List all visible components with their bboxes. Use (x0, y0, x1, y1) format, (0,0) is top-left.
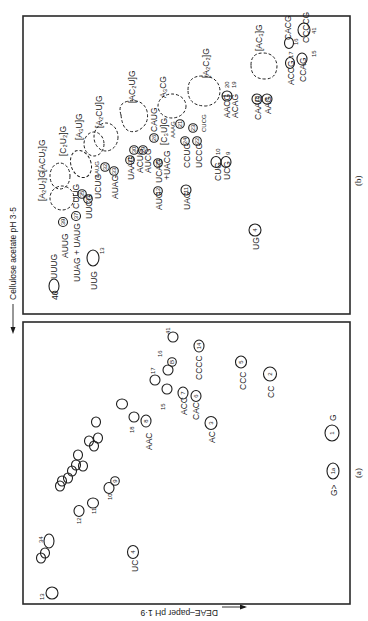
spot-number: 15 (311, 50, 317, 57)
spot-label: UUAG + UAUG (72, 223, 82, 282)
spot-label: AUUG (60, 233, 70, 258)
spot-number: 41 (311, 27, 317, 34)
spot-label: [ACU₂]G (37, 139, 47, 172)
panel-a-spots: 13 34 UC 4 12 11 10 9 18 (37, 327, 340, 600)
spot-label: UUUG (49, 254, 59, 279)
spot-label: ACC (179, 397, 189, 415)
spot-number: 37 (73, 212, 79, 219)
dashed-spot (188, 76, 220, 106)
spot-number: 17 (150, 367, 156, 374)
spot-number: 12 (155, 187, 161, 194)
spot-label: AAAG (170, 121, 176, 138)
spot-number: 4 (130, 550, 136, 554)
dashed-spot (50, 163, 70, 189)
spot-number: 11 (183, 186, 189, 193)
spot-label: [A₂C₂]G (201, 48, 211, 78)
spot-number: 39 (60, 218, 66, 225)
spot-label: [C₂U₂]G (58, 126, 68, 156)
axis-label-vertical: DEAE–paper pH 1·9 (140, 608, 218, 618)
spot-label: [A₂CU]G (94, 95, 104, 128)
spot-number: 18 (129, 426, 135, 433)
spot-label: AUAG (110, 175, 120, 199)
panel-b-label: (b) (353, 176, 363, 187)
spot-number: 12 (76, 517, 82, 524)
spot-number: 26 (151, 134, 157, 141)
spot-label: AAUG (94, 161, 100, 178)
spot-number: B (169, 360, 175, 364)
spot-number: 32 (102, 163, 108, 170)
spot-number: 30 (131, 146, 137, 153)
spot-number: 7 (180, 391, 186, 395)
spot-label: +UACG (162, 150, 172, 180)
spot-number: 16 (157, 350, 163, 357)
spot-label: CC (266, 386, 276, 398)
spot-number: 16 (293, 38, 299, 45)
panel-b-spots: 40 UUUG UUG 13 AUUG 39 UUAG + UAUG 37 CU… (37, 12, 317, 300)
spot-number: 14 (196, 342, 202, 349)
spot-label: [C₃U]G (159, 118, 169, 145)
spot-number: 13 (39, 593, 45, 600)
spot-number: 11 (91, 507, 97, 514)
spot-number: 33 (111, 167, 117, 174)
spot-number: 15 (160, 403, 166, 410)
spot-number: 6 (193, 394, 199, 398)
spot-number: 10 (215, 148, 221, 155)
spot-number: 9 (112, 479, 118, 483)
axis-cellulose-acetate: Cellulose acetate pH 3·5 (8, 207, 18, 334)
spot-label: [A₃U]G (74, 113, 84, 140)
spot-number: 35 (79, 190, 85, 197)
spot-number: 13 (99, 247, 105, 254)
spot-number: 3 (208, 421, 214, 425)
spot-label: CCUG (182, 143, 192, 168)
spot-number: 21 (177, 120, 183, 127)
spot-label: CCC (238, 372, 248, 390)
spot-label: AAC (144, 433, 154, 450)
spot-label: UCCG (194, 143, 204, 168)
spot-number: 20 (224, 81, 230, 88)
spot-label: [A₂U₂]G (37, 171, 47, 201)
spot-label: CUCG (201, 114, 207, 132)
dashed-spot (67, 147, 95, 180)
spot-number: 29 (140, 146, 146, 153)
spot-number: 22 (194, 137, 200, 144)
axis-label-horizontal: Cellulose acetate pH 3·5 (8, 207, 18, 300)
dashed-spot (120, 101, 148, 132)
spot-label: G (328, 414, 338, 421)
axis-deae-paper: DEAE–paper pH 1·9 (140, 605, 247, 619)
spot-number: 1 (329, 431, 335, 435)
spot-number: 9 (225, 151, 231, 155)
spot-number: 1a (330, 467, 336, 474)
spot-label: A₃CG (158, 76, 168, 98)
spot-number: 18 (254, 95, 260, 102)
spot-number: 31 (127, 156, 133, 163)
spot-number: 19 (231, 81, 237, 88)
spot-number: 2 (267, 372, 273, 376)
spot-number: 17 (288, 51, 294, 58)
spot (87, 250, 99, 266)
spot-label: [AC₂U]G (127, 70, 137, 103)
spot-number: 24 (182, 137, 188, 144)
spot-label: CAUG (149, 107, 159, 132)
spot-number: 8 (143, 419, 149, 423)
spot-number: 4 (252, 228, 258, 232)
spot-label: CCCC (194, 355, 204, 380)
spot-label: AC (207, 431, 217, 443)
arrow-right-icon (240, 605, 247, 610)
arrow-down-icon (11, 327, 16, 334)
spot-label: CACG (283, 15, 293, 40)
fingerprint-figure: Cellulose acetate pH 3·5 DEAE–paper pH 1… (0, 0, 368, 621)
spot-number: 5 (238, 360, 244, 364)
spot-number: 34 (38, 536, 44, 543)
spot-label: UG (251, 237, 261, 250)
spot-label: [AC₃]G (254, 24, 264, 51)
spot-label: UUG (89, 271, 99, 290)
spot-number: 23 (190, 124, 196, 131)
spot-label: G> (329, 484, 339, 496)
spot-label: CAC (191, 402, 201, 420)
panel-a-label: (a) (353, 468, 363, 478)
spot-label: UC (130, 560, 140, 572)
dashed-spot (251, 53, 277, 79)
spot-number: 25 (155, 159, 161, 166)
